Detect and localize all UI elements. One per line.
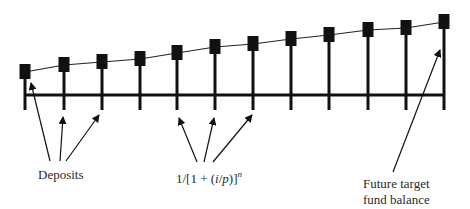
deposits-label: Deposits [38,167,84,183]
fund-growth-line [25,22,444,72]
future-balance-arrow [393,50,440,172]
deposit-arrow-3 [66,115,99,161]
future-label-line2: fund balance [363,192,430,208]
balance-marker [248,36,259,51]
discount-arrow-3 [213,115,252,162]
future-label-line1: Future target [363,176,430,192]
balance-marker [172,45,183,60]
balance-marker [286,31,297,46]
balance-marker [97,54,108,69]
balance-marker [401,20,412,35]
balance-marker [135,51,146,66]
balance-marker [210,39,221,54]
balance-marker [439,14,450,29]
discount-arrow-1 [179,118,197,162]
future-balance-label: Future target fund balance [363,176,430,208]
discount-factor-arrows [179,115,252,162]
discount-arrow-2 [204,118,214,162]
balance-marker [324,27,335,42]
balance-marker [20,64,31,79]
discount-suffix: )] [229,171,238,186]
balance-marker [59,57,70,72]
deposit-arrow-2 [60,117,63,161]
balance-marker [363,22,374,37]
discount-factor-label: 1/[1 + (i/p)]n [176,166,242,187]
discount-prefix: 1/[1 + ( [176,171,215,186]
discount-exponent: n [238,169,243,179]
